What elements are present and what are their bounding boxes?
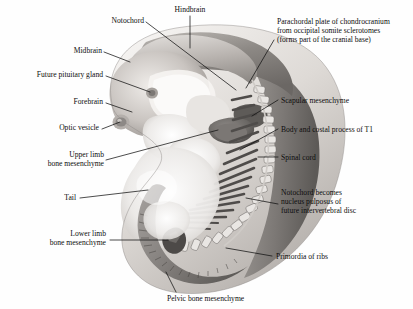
leader-notochord-becomes <box>246 198 278 204</box>
leader-tail <box>80 190 148 198</box>
label-upper-limb-line2: bone mesenchyme <box>4 159 104 168</box>
label-primordia-of-ribs: Primordia of ribs <box>276 252 328 261</box>
label-spinal-cord: Spinal cord <box>281 153 316 162</box>
leader-upper-limb <box>106 130 218 160</box>
label-parachordal-line1: Parachordal plate of chondrocranium <box>277 17 390 26</box>
label-pelvic-bone-mesenchyme: Pelvic bone mesenchyme <box>167 294 244 303</box>
leader-body-costal <box>240 129 278 150</box>
label-parachordal-line3: (forms part of the cranial base) <box>277 35 390 44</box>
label-scapular-mesenchyme: Scapular mesenchyme <box>281 96 349 105</box>
leader-parachordal <box>246 40 274 88</box>
leader-optic-vesicle <box>102 122 120 129</box>
label-future-pituitary-gland: Future pituitary gland <box>0 70 103 79</box>
label-midbrain: Midbrain <box>10 46 102 55</box>
leader-future-pituitary <box>106 76 150 92</box>
label-parachordal-line2: from occipital somite sclerotomes <box>277 26 390 35</box>
illustration-canvas: Hindbrain Notochord Midbrain Future pitu… <box>0 0 413 309</box>
label-notochord-becomes-line1: Notochord becomes <box>281 188 356 197</box>
label-forebrain: Forebrain <box>10 97 103 106</box>
label-notochord-becomes: Notochord becomes nucleus pulposus of fu… <box>281 188 356 216</box>
label-body-costal-process-t1: Body and costal process of T1 <box>281 125 373 134</box>
label-upper-limb-line1: Upper limb <box>4 150 104 159</box>
label-notochord: Notochord <box>22 16 144 25</box>
leader-notochord <box>146 22 236 90</box>
label-lower-limb-line1: Lower limb <box>4 229 106 238</box>
leader-primordia-ribs <box>226 248 272 256</box>
label-lower-limb-bone-mesenchyme: Lower limb bone mesenchyme <box>4 229 106 247</box>
leader-midbrain <box>104 52 130 62</box>
label-notochord-becomes-line3: future intervertebral disc <box>281 206 356 215</box>
label-parachordal-plate: Parachordal plate of chondrocranium from… <box>277 17 390 45</box>
label-upper-limb-bone-mesenchyme: Upper limb bone mesenchyme <box>4 150 104 168</box>
label-notochord-becomes-line2: nucleus pulposus of <box>281 197 356 206</box>
label-lower-limb-line2: bone mesenchyme <box>4 238 106 247</box>
label-tail: Tail <box>24 193 76 202</box>
leader-pelvic-bone <box>166 272 176 292</box>
leader-forebrain <box>106 103 132 112</box>
label-hindbrain: Hindbrain <box>158 5 222 14</box>
leader-scapular <box>252 100 278 116</box>
label-optic-vesicle: Optic vesicle <box>6 123 99 132</box>
